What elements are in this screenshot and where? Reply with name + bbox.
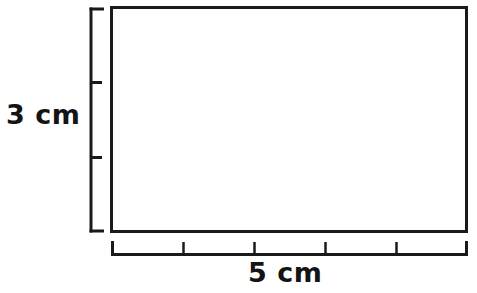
rectangle-shape [112, 8, 467, 232]
width-ruler [111, 241, 468, 256]
height-ruler [90, 8, 105, 233]
geometry-figure [0, 0, 477, 293]
width-measure-label: 5 cm [248, 259, 322, 286]
height-measure-label: 3 cm [6, 101, 80, 128]
diagram-canvas: 3 cm 5 cm [0, 0, 477, 293]
